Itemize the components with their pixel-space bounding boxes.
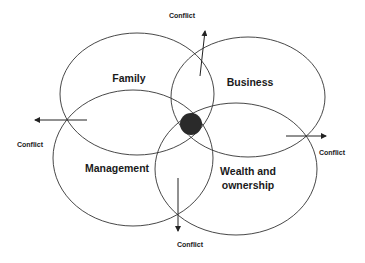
label-management: Management: [85, 162, 150, 174]
conflict-label-top: Conflict: [169, 12, 196, 19]
label-ownership: ownership: [222, 179, 275, 191]
center-overlap-dot: [180, 113, 202, 135]
conflict-label-left: Conflict: [17, 141, 44, 148]
conflict-label-bottom: Conflict: [177, 241, 204, 248]
circle-business: [171, 37, 325, 157]
conflict-arrow-top: [200, 31, 205, 76]
family-business-venn-diagram: Family Business Management Wealth and ow…: [0, 0, 365, 263]
label-family: Family: [112, 72, 145, 84]
circle-labels: Family Business Management Wealth and ow…: [85, 72, 276, 191]
label-wealth-and: Wealth and: [220, 165, 276, 177]
conflict-arrows: [35, 31, 326, 231]
label-business: Business: [227, 76, 274, 88]
circle-management: [53, 90, 213, 226]
conflict-label-right: Conflict: [319, 149, 346, 156]
